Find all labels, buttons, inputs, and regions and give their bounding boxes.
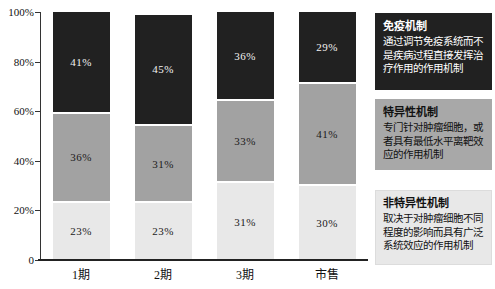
bar-value-label: 29% — [316, 41, 338, 53]
bar-value-label: 30% — [316, 217, 338, 229]
x-axis-label: 3期 — [204, 265, 286, 283]
bar-value-label: 36% — [70, 151, 92, 163]
bar-value-label: 31% — [234, 216, 256, 228]
legend: 免疫机制通过调节免疫系统而不是疾病过程直接发挥治疗作用的作用机制特异性机制专门针… — [375, 0, 492, 289]
bar-value-label: 36% — [234, 50, 256, 62]
x-axis-label: 2期 — [122, 265, 204, 283]
bar-segment: 30% — [299, 186, 356, 260]
bar-value-label: 41% — [316, 128, 338, 140]
bar-slot: 30%41%29% — [286, 12, 368, 260]
x-axis-labels: 1期2期3期市售 — [40, 265, 368, 283]
y-tick-label: 100% — [0, 6, 34, 18]
x-axis-line — [38, 259, 368, 261]
bar-value-label: 31% — [152, 158, 174, 170]
bar-value-label: 23% — [70, 225, 92, 237]
bar-slot: 31%33%36% — [204, 12, 286, 260]
bar-value-label: 23% — [152, 225, 174, 237]
bar-segment: 33% — [217, 101, 274, 183]
stacked-bar: 23%31%45% — [135, 12, 192, 260]
y-tick-label: 60% — [0, 105, 34, 117]
bar-segment: 23% — [53, 203, 110, 260]
bar-segment: 36% — [217, 12, 274, 101]
y-tick-label: 0 — [0, 254, 34, 266]
bar-value-label: 33% — [234, 135, 256, 147]
bar-segment: 36% — [53, 114, 110, 203]
bar-segment: 31% — [217, 183, 274, 260]
y-tick-label: 80% — [0, 56, 34, 68]
legend-title: 非特异性机制 — [383, 196, 484, 210]
bar-segment: 41% — [53, 12, 110, 114]
legend-box: 免疫机制通过调节免疫系统而不是疾病过程直接发挥治疗作用的作用机制 — [375, 13, 492, 90]
stacked-bar: 31%33%36% — [217, 12, 274, 260]
chart-canvas: 100%80%60%40%20%0 23%36%41%23%31%45%31%3… — [0, 0, 495, 289]
stacked-bar: 23%36%41% — [53, 12, 110, 260]
bar-value-label: 41% — [70, 56, 92, 68]
legend-body-text: 取决于对肿瘤细胞不同程度的影响而具有广泛系统效应的作用机制 — [383, 212, 484, 253]
y-tick-label: 40% — [0, 155, 34, 167]
bar-segment: 31% — [135, 126, 192, 203]
legend-body-text: 专门针对肿瘤细胞，或者具有最低水平离靶效应的作用机制 — [383, 121, 484, 162]
legend-title: 特异性机制 — [383, 105, 484, 119]
x-axis-label: 1期 — [40, 265, 122, 283]
bar-segment: 23% — [135, 203, 192, 260]
bar-value-label: 45% — [152, 63, 174, 75]
legend-body-text: 通过调节免疫系统而不是疾病过程直接发挥治疗作用的作用机制 — [383, 35, 484, 76]
y-tick-label: 20% — [0, 204, 34, 216]
bar-slot: 23%31%45% — [122, 12, 204, 260]
stacked-bar: 30%41%29% — [299, 12, 356, 260]
x-axis-label: 市售 — [286, 265, 368, 283]
bar-segment: 45% — [135, 15, 192, 127]
bar-segment: 41% — [299, 84, 356, 186]
legend-box: 特异性机制专门针对肿瘤细胞，或者具有最低水平离靶效应的作用机制 — [375, 99, 492, 170]
bar-slot: 23%36%41% — [40, 12, 122, 260]
legend-box: 非特异性机制取决于对肿瘤细胞不同程度的影响而具有广泛系统效应的作用机制 — [375, 190, 492, 265]
bars-area: 23%36%41%23%31%45%31%33%36%30%41%29% — [40, 12, 368, 260]
legend-title: 免疫机制 — [383, 19, 484, 33]
bar-segment: 29% — [299, 12, 356, 84]
